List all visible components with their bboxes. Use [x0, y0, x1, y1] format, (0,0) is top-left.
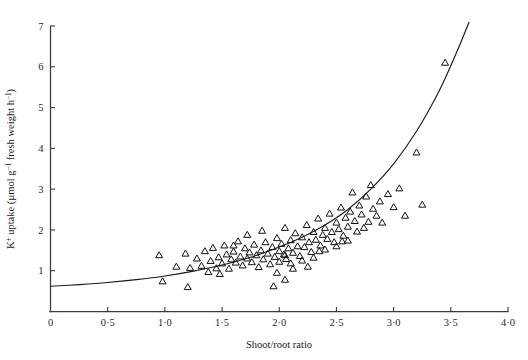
y-axis-tick-labels: 1234567: [38, 21, 44, 277]
x-tick-label: 2·0: [272, 317, 286, 328]
data-point-marker: [289, 249, 296, 255]
data-point-marker: [312, 236, 319, 242]
y-title-close: ): [5, 88, 17, 92]
x-tick-label: 3·5: [444, 317, 458, 328]
data-point-marker: [338, 204, 345, 210]
x-tick-label: 2·5: [329, 317, 343, 328]
data-point-marker: [324, 235, 331, 241]
data-point-marker: [209, 244, 216, 250]
x-tick-label: 0·5: [101, 317, 115, 328]
data-point-marker: [207, 257, 214, 263]
data-point-marker: [342, 214, 349, 220]
y-tick-label: 6: [38, 61, 43, 72]
y-title-unit-mu: µmol g: [5, 170, 16, 201]
data-point-marker: [273, 269, 280, 275]
data-point-marker: [340, 232, 347, 238]
y-title-word: uptake (: [5, 200, 17, 237]
data-point-marker: [294, 243, 301, 249]
data-point-marker: [283, 255, 290, 261]
data-point-marker: [255, 264, 262, 270]
data-point-marker: [379, 219, 386, 225]
data-point-marker: [365, 218, 372, 224]
y-tick-label: 1: [38, 265, 43, 276]
data-point-marker: [260, 256, 267, 262]
y-axis-ticks: [51, 26, 56, 271]
data-point-marker: [267, 261, 274, 267]
y-axis-title: K+ uptake (µmol g−1 fresh weight h−1): [5, 88, 17, 249]
data-point-marker: [237, 253, 244, 259]
data-point-marker: [269, 244, 276, 250]
data-point-marker: [241, 245, 248, 251]
data-point-marker: [278, 240, 285, 246]
data-point-marker: [354, 228, 361, 234]
data-point-marker: [246, 249, 253, 255]
data-point-marker: [442, 59, 449, 65]
data-point-marker: [184, 284, 191, 290]
data-point-marker: [273, 235, 280, 241]
data-point-marker: [328, 228, 335, 234]
data-point-marker: [339, 238, 346, 244]
data-point-marker: [373, 212, 380, 218]
data-point-marker: [326, 210, 333, 216]
data-point-marker: [319, 231, 326, 237]
data-point-marker: [305, 239, 312, 245]
y-title-unit-mid: fresh weight h: [5, 99, 16, 162]
data-point-marker: [402, 212, 409, 218]
x-tick-label: 4·0: [501, 317, 515, 328]
data-point-marker: [390, 204, 397, 210]
data-point-marker: [262, 239, 269, 245]
y-tick-label: 2: [38, 225, 43, 236]
data-point-marker: [251, 241, 258, 247]
data-point-marker: [303, 222, 310, 228]
svg-text:K+ uptake (µmol g−1 fresh weig: K+ uptake (µmol g−1 fresh weight h−1): [5, 88, 17, 249]
data-point-marker: [259, 227, 266, 233]
data-point-marker: [221, 242, 228, 248]
x-axis-tick-labels: 00·51·01·52·02·53·03·54·0: [48, 317, 515, 328]
data-point-marker: [322, 246, 329, 252]
data-point-marker: [413, 149, 420, 155]
data-point-marker: [358, 211, 365, 217]
data-point-marker: [384, 191, 391, 197]
data-point-marker: [317, 242, 324, 248]
data-point-marker: [349, 189, 356, 195]
x-axis-title: Shoot/root ratio: [246, 339, 312, 350]
data-point-marker: [322, 224, 329, 230]
y-tick-label: 3: [38, 184, 43, 195]
data-point-marker: [370, 205, 377, 211]
data-point-marker: [205, 268, 212, 274]
x-tick-label: 3·0: [387, 317, 401, 328]
x-tick-label: 1·5: [215, 317, 229, 328]
data-point-marker: [187, 264, 194, 270]
data-point-marker: [182, 250, 189, 256]
data-point-marker: [215, 254, 222, 260]
fit-curve-line: [51, 22, 470, 286]
data-point-marker: [310, 254, 317, 260]
data-point-marker: [376, 198, 383, 204]
data-point-marker: [335, 226, 342, 232]
data-point-marker: [193, 255, 200, 261]
data-point-marker: [235, 238, 242, 244]
data-point-marker: [198, 262, 205, 268]
data-point-marker: [396, 185, 403, 191]
y-tick-label: 7: [38, 21, 43, 32]
data-point-marker: [281, 224, 288, 230]
y-tick-label: 4: [38, 143, 44, 154]
data-point-marker: [304, 263, 311, 269]
data-point-marker: [285, 245, 292, 251]
data-point-marker: [239, 262, 246, 268]
x-tick-label: 0: [48, 317, 53, 328]
chart-figure: 00·51·01·52·02·53·03·54·0 1234567 Shoot/…: [0, 0, 528, 360]
data-point-marker: [156, 252, 163, 258]
data-point-marker: [367, 182, 374, 188]
data-point-marker: [419, 201, 426, 207]
data-point-marker: [257, 247, 264, 253]
data-point-marker: [230, 248, 237, 254]
data-point-marker: [216, 270, 223, 276]
data-point-marker: [315, 215, 322, 221]
data-point-marker: [244, 231, 251, 237]
axes: [50, 26, 508, 312]
data-point-marker: [351, 217, 358, 223]
data-point-marker: [201, 248, 208, 254]
data-point-marker: [360, 224, 367, 230]
x-axis-ticks: [108, 307, 508, 312]
